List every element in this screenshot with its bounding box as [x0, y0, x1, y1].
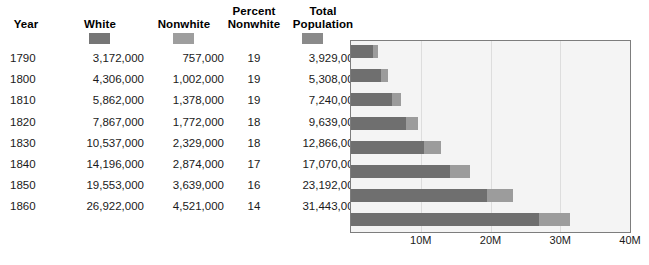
x-axis: 10M20M30M40M [350, 234, 631, 252]
cell-white: 10,537,000 [56, 133, 144, 154]
table-row: 183010,537,0002,329,0001812,866,000 [0, 133, 345, 154]
cell-nonwhite: 1,378,000 [148, 90, 224, 111]
bar-segment-nonwhite-1800 [381, 69, 388, 82]
cell-percent-nonwhite: 18 [226, 133, 282, 154]
cell-white: 5,862,000 [56, 90, 144, 111]
cell-percent-nonwhite: 19 [226, 90, 282, 111]
bar-segment-white-1810 [351, 93, 392, 106]
nonwhite-swatch-icon [173, 33, 194, 44]
bar-segment-nonwhite-1840 [450, 165, 470, 178]
cell-nonwhite: 1,002,000 [148, 69, 224, 90]
bar-segment-white-1800 [351, 69, 381, 82]
bar-group-1820 [351, 117, 630, 130]
white-swatch-icon [89, 33, 110, 44]
bar-segment-white-1790 [351, 45, 373, 58]
cell-year: 1820 [10, 112, 54, 133]
cell-nonwhite: 3,639,000 [148, 175, 224, 196]
cell-total-population: 3,929,000 [286, 48, 360, 69]
cell-percent-nonwhite: 17 [226, 154, 282, 175]
cell-year: 1810 [10, 90, 54, 111]
x-tick-label-40M: 40M [619, 234, 640, 246]
bar-segment-white-1850 [351, 189, 487, 202]
table-row: 185019,553,0003,639,0001623,192,000 [0, 175, 345, 196]
cell-total-population: 5,308,000 [286, 69, 360, 90]
bar-segment-nonwhite-1860 [539, 213, 571, 226]
cell-year: 1850 [10, 175, 54, 196]
cell-year: 1830 [10, 133, 54, 154]
cell-white: 4,306,000 [56, 69, 144, 90]
legend-swatch-row [0, 0, 345, 48]
total-population-swatch-icon [302, 33, 323, 44]
bar-segment-white-1830 [351, 141, 424, 154]
data-table: Year White Nonwhite Percent Nonwhite Tot… [0, 0, 345, 265]
cell-total-population: 31,443,000 [286, 196, 360, 217]
bar-group-1850 [351, 189, 630, 202]
bar-segment-white-1820 [351, 117, 406, 130]
cell-percent-nonwhite: 18 [226, 112, 282, 133]
table-header-row: Year White Nonwhite Percent Nonwhite Tot… [0, 0, 345, 48]
cell-white: 19,553,000 [56, 175, 144, 196]
x-tick-label-10M: 10M [410, 234, 431, 246]
cell-white: 3,172,000 [56, 48, 144, 69]
bar-chart: 10M20M30M40M [350, 40, 631, 233]
bar-segment-white-1860 [351, 213, 539, 226]
cell-nonwhite: 1,772,000 [148, 112, 224, 133]
x-tick-label-30M: 30M [550, 234, 571, 246]
cell-white: 26,922,000 [56, 196, 144, 217]
cell-total-population: 17,070,000 [286, 154, 360, 175]
cell-nonwhite: 4,521,000 [148, 196, 224, 217]
cell-total-population: 12,866,000 [286, 133, 360, 154]
table-row: 184014,196,0002,874,0001717,070,000 [0, 154, 345, 175]
bar-group-1790 [351, 45, 630, 58]
plot-area [350, 40, 631, 233]
table-row: 17903,172,000757,000193,929,000 [0, 48, 345, 69]
cell-nonwhite: 757,000 [148, 48, 224, 69]
bar-group-1830 [351, 141, 630, 154]
cell-percent-nonwhite: 19 [226, 48, 282, 69]
bar-segment-nonwhite-1850 [487, 189, 512, 202]
cell-year: 1860 [10, 196, 54, 217]
cell-percent-nonwhite: 16 [226, 175, 282, 196]
bar-segment-white-1840 [351, 165, 450, 178]
table-row: 18207,867,0001,772,000189,639,000 [0, 112, 345, 133]
cell-white: 7,867,000 [56, 112, 144, 133]
cell-percent-nonwhite: 14 [226, 196, 282, 217]
bar-segment-nonwhite-1820 [406, 117, 418, 130]
cell-year: 1790 [10, 48, 54, 69]
table-body: 17903,172,000757,000193,929,00018004,306… [0, 48, 345, 218]
bar-group-1840 [351, 165, 630, 178]
cell-white: 14,196,000 [56, 154, 144, 175]
cell-total-population: 7,240,000 [286, 90, 360, 111]
bar-segment-nonwhite-1810 [392, 93, 402, 106]
table-row: 186026,922,0004,521,0001431,443,000 [0, 196, 345, 217]
bar-group-1800 [351, 69, 630, 82]
table-row: 18105,862,0001,378,000197,240,000 [0, 90, 345, 111]
x-tick-label-20M: 20M [480, 234, 501, 246]
table-row: 18004,306,0001,002,000195,308,000 [0, 69, 345, 90]
bar-group-1810 [351, 93, 630, 106]
cell-year: 1800 [10, 69, 54, 90]
bar-segment-nonwhite-1790 [373, 45, 378, 58]
cell-nonwhite: 2,329,000 [148, 133, 224, 154]
bar-segment-nonwhite-1830 [424, 141, 440, 154]
chart-with-table-figure: Year White Nonwhite Percent Nonwhite Tot… [0, 0, 649, 265]
cell-nonwhite: 2,874,000 [148, 154, 224, 175]
cell-year: 1840 [10, 154, 54, 175]
cell-total-population: 23,192,000 [286, 175, 360, 196]
bar-group-1860 [351, 213, 630, 226]
cell-total-population: 9,639,000 [286, 112, 360, 133]
cell-percent-nonwhite: 19 [226, 69, 282, 90]
